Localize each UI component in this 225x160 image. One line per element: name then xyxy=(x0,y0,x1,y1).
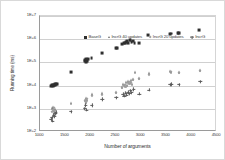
data-point xyxy=(137,42,140,45)
x-axis-tick-label: 1000 xyxy=(35,133,44,137)
x-axis-tick-label: 4000 xyxy=(186,133,195,137)
data-point xyxy=(69,70,72,73)
gridline xyxy=(40,109,215,110)
x-axis-tick-mark xyxy=(166,130,167,131)
legend-item-square[interactable]: BaseG xyxy=(84,35,101,39)
legend-label: BaseG xyxy=(89,35,101,39)
data-point xyxy=(90,56,93,59)
y-axis-title: Running time (ms) xyxy=(10,28,15,118)
data-point xyxy=(114,96,117,99)
legend-item-triangle[interactable]: IncrG 40 updates xyxy=(108,35,142,39)
data-point xyxy=(177,71,180,74)
data-point xyxy=(198,29,201,32)
data-point xyxy=(115,92,118,95)
x-axis-tick-mark xyxy=(116,130,117,131)
data-point xyxy=(100,97,103,100)
legend-label: IncrG 20 updates xyxy=(153,35,184,39)
data-point xyxy=(70,102,72,105)
x-axis-tick-label: 3000 xyxy=(136,133,145,137)
plus-marker-icon xyxy=(190,36,193,39)
x-axis-tick-label: 3500 xyxy=(161,133,170,137)
y-axis-tick-label: 1E+4 xyxy=(27,82,36,86)
data-point xyxy=(130,91,133,94)
gridline xyxy=(40,16,215,17)
data-point xyxy=(51,119,54,122)
data-point xyxy=(69,110,72,113)
data-point xyxy=(137,77,140,80)
x-axis-tick-label: 1500 xyxy=(60,133,69,137)
y-axis-tick-label: 1E+5 xyxy=(27,59,36,63)
x-axis-tick-labels: 10001500200025003000350040004500 xyxy=(39,132,216,142)
chart-legend: BaseGIncrG 40 updatesIncrG 20 updatesInc… xyxy=(84,33,216,42)
data-point xyxy=(84,104,87,107)
data-point xyxy=(101,93,104,96)
data-point xyxy=(148,73,151,76)
legend-item-plus[interactable]: IncrG xyxy=(190,35,205,39)
data-point xyxy=(198,69,201,72)
data-point xyxy=(177,83,180,86)
data-point xyxy=(90,104,93,107)
y-axis-tick-label: 1E+6 xyxy=(27,36,36,40)
x-axis-tick-mark xyxy=(192,130,193,131)
chart-figure: 1E+21E+31E+41E+51E+61E+7 BaseGIncrG 40 u… xyxy=(0,0,225,160)
square-marker-icon xyxy=(84,36,87,39)
data-point xyxy=(170,82,173,85)
data-point xyxy=(90,94,93,97)
x-axis-tick-label: 2000 xyxy=(85,133,94,137)
data-point xyxy=(132,87,135,90)
x-axis-tick-mark xyxy=(91,130,92,131)
diamond-marker-icon xyxy=(148,36,151,39)
x-axis-tick-mark xyxy=(40,130,41,131)
data-point xyxy=(100,51,103,54)
y-axis-tick-label: 1E+3 xyxy=(27,106,36,110)
x-axis-tick-mark xyxy=(141,130,142,131)
legend-label: IncrG xyxy=(195,35,205,39)
data-point xyxy=(138,92,141,95)
gridline xyxy=(40,62,215,63)
y-axis-tick-label: 1E+7 xyxy=(27,13,36,17)
data-point xyxy=(85,108,88,111)
triangle-marker-icon xyxy=(108,36,110,38)
x-axis-tick-label: 2500 xyxy=(110,133,119,137)
x-axis-tick-mark xyxy=(65,130,66,131)
plot-area: BaseGIncrG 40 updatesIncrG 20 updatesInc… xyxy=(39,15,216,131)
data-point xyxy=(147,88,150,91)
legend-label: IncrG 40 updates xyxy=(111,35,142,39)
y-axis-tick-labels: 1E+21E+31E+41E+51E+61E+7 xyxy=(1,15,39,131)
data-point xyxy=(116,47,119,50)
legend-item-diamond[interactable]: IncrG 20 updates xyxy=(149,35,183,39)
data-point xyxy=(199,80,202,83)
data-point xyxy=(86,57,89,60)
data-point xyxy=(54,111,57,114)
x-axis-tick-label: 4500 xyxy=(212,133,221,137)
x-axis-title: Number of arguments xyxy=(39,143,216,149)
data-point xyxy=(134,70,136,73)
data-point xyxy=(55,83,58,86)
data-point xyxy=(169,70,172,73)
